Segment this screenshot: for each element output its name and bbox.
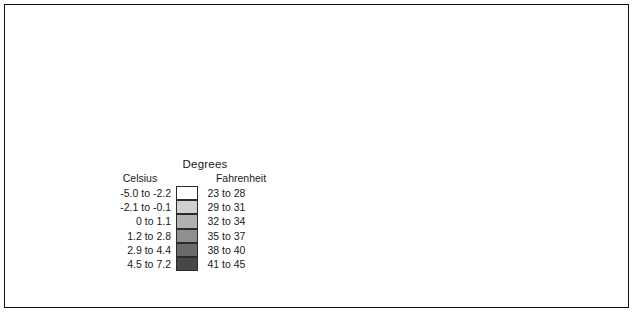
legend-color-swatch (176, 214, 198, 228)
legend-celsius-value: 2.9 to 4.4 (104, 243, 176, 257)
legend-row: 0 to 1.132 to 34 (104, 214, 280, 228)
legend-fahrenheit-value: 29 to 31 (198, 200, 280, 214)
legend-row: 1.2 to 2.835 to 37 (104, 229, 280, 243)
legend-header-celsius: Celsius (104, 172, 176, 184)
legend-color-swatch (176, 257, 198, 271)
legend-row: -2.1 to -0.129 to 31 (104, 200, 280, 214)
legend-fahrenheit-value: 38 to 40 (198, 243, 280, 257)
legend-celsius-value: -2.1 to -0.1 (104, 200, 176, 214)
legend-celsius-value: 1.2 to 2.8 (104, 229, 176, 243)
legend-fahrenheit-value: 35 to 37 (198, 229, 280, 243)
map-page: Degrees Celsius Fahrenheit -5.0 to -2.22… (0, 0, 635, 314)
legend-header-fahrenheit: Fahrenheit (202, 172, 280, 184)
legend-celsius-value: 4.5 to 7.2 (104, 257, 176, 271)
legend-fahrenheit-value: 41 to 45 (198, 257, 280, 271)
legend-color-swatch (176, 200, 198, 214)
legend-fahrenheit-value: 32 to 34 (198, 214, 280, 228)
legend-row: -5.0 to -2.223 to 28 (104, 186, 280, 200)
map-legend: Degrees Celsius Fahrenheit -5.0 to -2.22… (104, 158, 280, 271)
legend-color-swatch (176, 186, 198, 200)
legend-column-headers: Celsius Fahrenheit (104, 172, 280, 184)
legend-fahrenheit-value: 23 to 28 (198, 186, 280, 200)
legend-color-swatch (176, 243, 198, 257)
legend-row: 4.5 to 7.241 to 45 (104, 257, 280, 271)
legend-header-spacer (176, 172, 202, 184)
legend-row: 2.9 to 4.438 to 40 (104, 243, 280, 257)
legend-celsius-value: -5.0 to -2.2 (104, 186, 176, 200)
legend-celsius-value: 0 to 1.1 (104, 214, 176, 228)
legend-color-swatch (176, 229, 198, 243)
image-border-frame (4, 4, 629, 308)
legend-title: Degrees (104, 158, 280, 170)
legend-rows: -5.0 to -2.223 to 28-2.1 to -0.129 to 31… (104, 186, 280, 271)
